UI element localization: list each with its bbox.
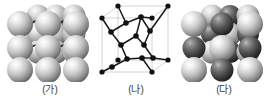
panel-ga-illustration xyxy=(4,0,96,82)
panel-da: (다) xyxy=(178,0,270,107)
na-cube-frame xyxy=(102,6,168,72)
panel-na: (나) xyxy=(94,0,178,107)
crystal-structure-figure: (가) xyxy=(0,0,272,107)
panel-na-caption: (나) xyxy=(94,84,178,96)
panel-da-caption: (다) xyxy=(178,84,270,96)
na-atoms xyxy=(99,3,170,74)
panel-da-illustration xyxy=(178,0,270,82)
ga-front-layer xyxy=(7,11,89,82)
na-bonds xyxy=(102,6,168,72)
panel-na-illustration xyxy=(94,0,178,82)
da-front-layer xyxy=(181,11,263,82)
panel-ga-caption: (가) xyxy=(4,84,96,96)
panel-ga: (가) xyxy=(4,0,96,107)
